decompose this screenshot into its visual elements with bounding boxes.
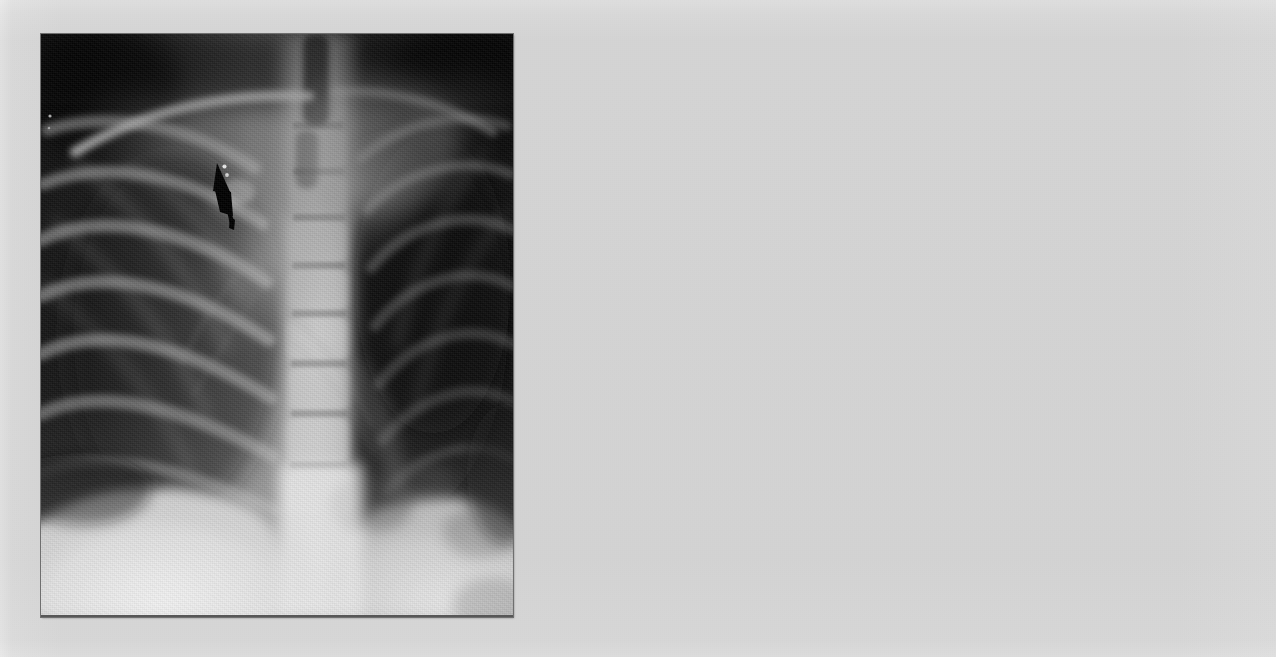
film-artifact-speck (225, 173, 229, 177)
figure-page (0, 0, 1276, 657)
radiograph-canvas (41, 34, 513, 617)
blank-page-region (513, 0, 1276, 657)
chest-radiograph-image[interactable] (41, 34, 513, 617)
figure-caption (41, 620, 513, 654)
film-artifact-speck (48, 114, 51, 117)
arrow-tip-highlight (222, 164, 226, 168)
film-artifact-speck (48, 127, 51, 130)
